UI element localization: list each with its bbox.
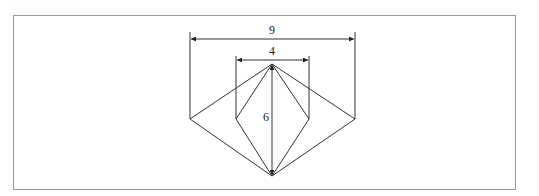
- outer-width-label: 9: [269, 23, 275, 37]
- height-label: 6: [263, 110, 269, 124]
- dimension-diagram: 9 4 6: [0, 0, 539, 196]
- inner-width-label: 4: [269, 44, 275, 58]
